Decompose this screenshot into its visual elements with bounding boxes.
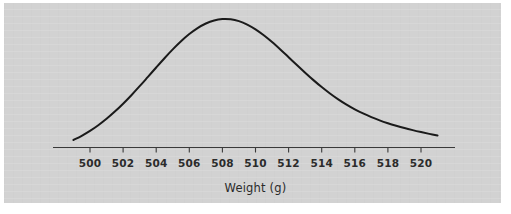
x-axis-tick-label: 500 bbox=[79, 157, 102, 169]
x-axis-tick-label: 506 bbox=[178, 157, 201, 169]
x-axis-tick-label: 508 bbox=[211, 157, 234, 169]
x-axis-tick-label: 512 bbox=[277, 157, 300, 169]
x-axis-tick-label: 516 bbox=[344, 157, 367, 169]
x-axis-tick-marks bbox=[90, 148, 421, 153]
normal-distribution-curve bbox=[73, 19, 437, 140]
x-axis-tick-label: 504 bbox=[145, 157, 168, 169]
x-axis-tick-label: 520 bbox=[410, 157, 433, 169]
x-axis-tick-label: 518 bbox=[377, 157, 400, 169]
x-axis-title: Weight (g) bbox=[0, 181, 511, 195]
x-axis-tick-label: 502 bbox=[112, 157, 135, 169]
x-axis-tick-label: 514 bbox=[310, 157, 333, 169]
x-axis-tick-label: 510 bbox=[244, 157, 267, 169]
figure: 500502504506508510512514516518520 Weight… bbox=[0, 0, 511, 214]
